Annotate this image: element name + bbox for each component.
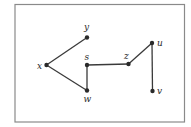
node-label-v: v bbox=[157, 86, 162, 96]
node-v bbox=[150, 89, 154, 93]
node-w bbox=[85, 88, 89, 92]
node-label-x: x bbox=[37, 61, 42, 71]
edge-x-y bbox=[47, 38, 88, 66]
edge-s-z bbox=[87, 64, 129, 65]
graph-labels: xyswzuv bbox=[37, 22, 163, 104]
node-label-z: z bbox=[123, 51, 129, 61]
node-y bbox=[85, 35, 89, 39]
node-z bbox=[126, 62, 130, 66]
node-label-y: y bbox=[83, 22, 90, 32]
graph-edges bbox=[47, 38, 153, 92]
node-label-s: s bbox=[85, 52, 90, 62]
graph-diagram: xyswzuv bbox=[0, 0, 191, 127]
node-u bbox=[150, 41, 154, 45]
node-s bbox=[85, 63, 89, 67]
edge-z-u bbox=[129, 43, 153, 64]
node-label-w: w bbox=[84, 94, 92, 104]
edge-u-v bbox=[152, 43, 153, 91]
edge-x-w bbox=[47, 65, 88, 91]
node-label-u: u bbox=[157, 38, 163, 48]
node-x bbox=[44, 63, 48, 67]
